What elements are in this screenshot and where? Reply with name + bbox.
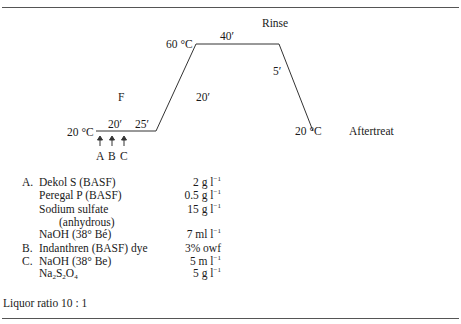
addition-arrow-c-icon bbox=[122, 136, 127, 146]
start-temp-label: 20 °C bbox=[67, 126, 94, 138]
recipe-letter: B. bbox=[22, 242, 33, 255]
recipe-value: 0.5 g l−1 bbox=[165, 189, 221, 202]
addition-a-label: A bbox=[96, 150, 104, 162]
addition-b-label: B bbox=[108, 150, 116, 162]
profile-line bbox=[96, 44, 313, 131]
time-b-c-label: 25′ bbox=[135, 118, 149, 130]
end-temp-label: 20 °C bbox=[295, 125, 322, 137]
time-hold-label: 40′ bbox=[220, 30, 234, 42]
recipe-value: 5 g l−1 bbox=[165, 267, 221, 280]
recipe-name: Sodium sulfate bbox=[39, 203, 108, 216]
phase-aftertreat-label: Aftertreat bbox=[349, 125, 394, 137]
phase-rinse-label: Rinse bbox=[262, 17, 288, 29]
peak-temp-label: 60 °C bbox=[166, 38, 193, 50]
recipe-name: NaOH (38° Bé) bbox=[39, 228, 111, 241]
time-ramp-up-label: 20′ bbox=[196, 91, 210, 103]
recipe-letter: A. bbox=[22, 176, 33, 189]
recipe-name: Dekol S (BASF) bbox=[39, 176, 116, 189]
recipe-letter: C. bbox=[22, 255, 33, 268]
bottom-rule bbox=[2, 318, 459, 319]
liquor-ratio-label: Liquor ratio 10 : 1 bbox=[3, 297, 87, 309]
recipe-name: Indanthren (BASF) dye bbox=[39, 242, 148, 255]
recipe-name: Peregal P (BASF) bbox=[39, 189, 122, 202]
phase-f-label: F bbox=[118, 91, 124, 103]
addition-arrow-b-icon bbox=[110, 136, 115, 146]
addition-c-label: C bbox=[120, 150, 128, 162]
recipe-value: 15 g l−1 bbox=[165, 203, 221, 216]
recipe-value: 7 ml l−1 bbox=[165, 228, 221, 241]
time-a-b-label: 20′ bbox=[108, 118, 122, 130]
addition-arrow-a-icon bbox=[98, 136, 103, 146]
recipe-name-formula: Na2S2O4 bbox=[39, 267, 78, 280]
temperature-profile-chart bbox=[0, 0, 461, 170]
time-cool-label: 5′ bbox=[273, 65, 281, 77]
